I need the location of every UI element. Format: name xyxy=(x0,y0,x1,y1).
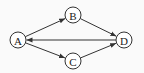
node-label: D xyxy=(120,35,128,47)
node-label: B xyxy=(69,10,76,22)
graph-diagram: ABCD xyxy=(0,0,144,73)
edge-b-to-d xyxy=(80,19,116,37)
edge-c-to-d xyxy=(80,43,116,58)
edges xyxy=(25,19,116,58)
node-a: A xyxy=(10,32,26,48)
edge-a-to-c xyxy=(25,43,65,58)
node-label: C xyxy=(69,56,76,68)
edge-a-to-b xyxy=(25,19,65,37)
nodes: ABCD xyxy=(10,7,132,69)
node-d: D xyxy=(116,32,132,48)
node-label: A xyxy=(14,35,22,47)
node-c: C xyxy=(65,53,81,69)
node-b: B xyxy=(65,7,81,23)
